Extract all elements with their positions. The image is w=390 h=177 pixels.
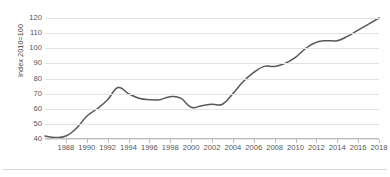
gridline-100	[45, 48, 379, 49]
y-tick-label-120: 120	[16, 14, 42, 22]
gridline-70	[45, 94, 379, 95]
y-tick-label-100: 100	[16, 44, 42, 52]
gridline-120	[45, 18, 379, 19]
y-tick-label-70: 70	[16, 90, 42, 98]
x-axis-tick-labels: 1988199019921994199619982000200220042006…	[45, 144, 379, 158]
plot-area	[45, 18, 379, 139]
y-axis-tick-labels: 120110100908070605040	[12, 0, 42, 177]
y-tick-label-60: 60	[16, 105, 42, 113]
footer-divider	[3, 169, 387, 170]
gridline-80	[45, 79, 379, 80]
y-tick-label-90: 90	[16, 59, 42, 67]
x-tick-label-2018: 2018	[362, 144, 390, 152]
y-tick-label-50: 50	[16, 120, 42, 128]
gridline-90	[45, 63, 379, 64]
y-tick-label-40: 40	[16, 135, 42, 143]
line-chart: Index 2010=100 120110100908070605040 198…	[0, 0, 390, 177]
y-tick-label-110: 110	[16, 29, 42, 37]
gridline-50	[45, 124, 379, 125]
y-tick-label-80: 80	[16, 75, 42, 83]
gridline-110	[45, 33, 379, 34]
gridline-60	[45, 109, 379, 110]
